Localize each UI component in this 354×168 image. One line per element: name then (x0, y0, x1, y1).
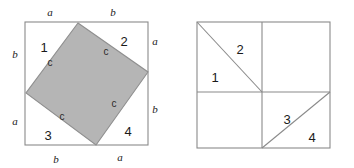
left-region-label-3: 3 (44, 128, 51, 143)
left-edge-label-top-b: b (110, 6, 116, 18)
left-region-label-4: 4 (124, 124, 131, 139)
right-diagram: 2 1 3 4 (197, 22, 330, 148)
left-hypotenuse-label-c-top-right: c (104, 46, 109, 57)
right-region-label-2: 2 (236, 42, 243, 57)
left-diagram: 1 2 3 4 c c c c a b b a a b b a (12, 6, 158, 165)
left-edge-label-bottom-b: b (53, 153, 59, 165)
left-edge-label-right-a: a (152, 35, 158, 47)
left-region-label-1: 1 (40, 40, 47, 55)
left-edge-label-bottom-a: a (117, 151, 123, 163)
pythagorean-figure-svg: 1 2 3 4 c c c c a b b a a b b a (0, 0, 354, 168)
left-edge-label-right-b: b (152, 103, 158, 115)
right-diagonal-upper-left (197, 22, 262, 92)
left-edge-label-left-a: a (12, 115, 18, 127)
left-hypotenuse-label-c-top-left: c (48, 57, 53, 68)
left-hypotenuse-label-c-bottom-left: c (60, 111, 65, 122)
left-hypotenuse-label-c-bottom-right: c (112, 98, 117, 109)
left-edge-label-top-a: a (47, 6, 53, 18)
left-region-label-2: 2 (120, 34, 127, 49)
right-region-label-1: 1 (211, 70, 218, 85)
left-edge-label-left-b: b (12, 48, 18, 60)
right-diagonal-lower-right (262, 92, 330, 148)
right-region-label-4: 4 (308, 130, 315, 145)
right-region-label-3: 3 (283, 112, 290, 127)
figure-root: 1 2 3 4 c c c c a b b a a b b a (0, 0, 354, 168)
